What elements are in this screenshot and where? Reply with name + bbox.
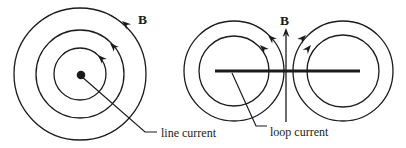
field-direction-arrowhead bbox=[120, 18, 131, 29]
b-field-label: B bbox=[138, 12, 147, 27]
line-current-caption: line current bbox=[161, 126, 217, 140]
figure-canvas: B line current B loop current bbox=[0, 0, 406, 148]
magnetic-field-diagram: B line current B loop current bbox=[0, 0, 406, 148]
loop-current-diagram: B loop current bbox=[184, 13, 393, 139]
line-current-diagram: B line current bbox=[14, 8, 217, 140]
b-field-label: B bbox=[280, 13, 289, 28]
loop-current-caption: loop current bbox=[270, 125, 329, 139]
